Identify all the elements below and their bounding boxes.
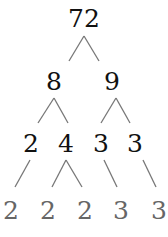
node-3b: 3: [127, 131, 143, 156]
node-4: 4: [58, 131, 74, 156]
node-8: 8: [46, 69, 62, 94]
leaf-3b: 3: [151, 198, 167, 223]
leaf-2c: 2: [77, 198, 93, 223]
leaf-3a: 3: [113, 198, 129, 223]
root-node: 72: [68, 6, 100, 31]
node-9: 9: [104, 69, 120, 94]
leaf-2b: 2: [40, 198, 56, 223]
node-3a: 3: [93, 131, 109, 156]
leaf-2a: 2: [3, 198, 19, 223]
node-2: 2: [23, 131, 39, 156]
